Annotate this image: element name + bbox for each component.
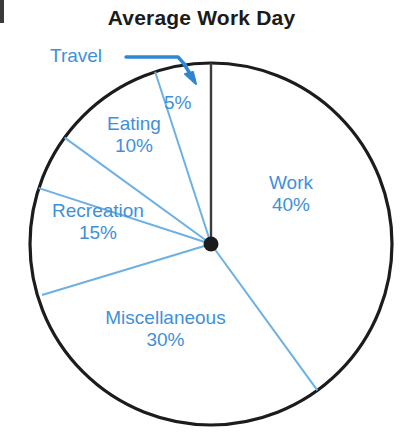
slice-label-work-percent: 40% [246, 194, 336, 216]
slice-label-miscellaneous-percent: 30% [78, 329, 253, 351]
slice-label-recreation-name: Recreation [28, 200, 168, 222]
slice-label-travel-name-callout: Travel [50, 45, 130, 67]
slice-label-travel-name: Travel [50, 45, 130, 67]
pie-center-dot [204, 237, 219, 252]
slice-label-recreation-percent: 15% [28, 222, 168, 244]
slice-label-work: Work 40% [246, 172, 336, 217]
slice-label-work-name: Work [246, 172, 336, 194]
slice-label-travel-percent-wrap: 5% [164, 92, 210, 114]
slice-label-eating-name: Eating [88, 113, 180, 135]
slice-label-miscellaneous-name: Miscellaneous [78, 307, 253, 329]
slice-label-travel-percent: 5% [164, 92, 210, 114]
slice-label-eating-percent: 10% [88, 135, 180, 157]
pie-chart-figure: Average Work Day Work 40% Miscellaneous [0, 0, 403, 442]
slice-label-miscellaneous: Miscellaneous 30% [78, 307, 253, 352]
slice-label-eating: Eating 10% [88, 113, 180, 158]
slice-label-recreation: Recreation 15% [28, 200, 168, 245]
